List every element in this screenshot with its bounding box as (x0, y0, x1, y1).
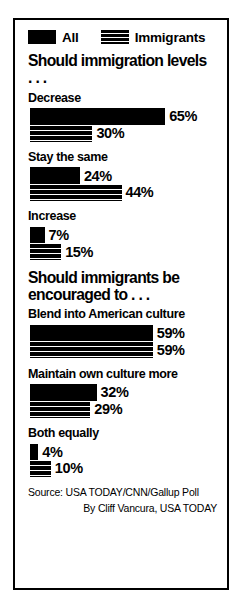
group-label-both-equally: Both equally (28, 426, 219, 440)
legend-label-immigrants: Immigrants (135, 30, 206, 45)
bar-immigrants (30, 401, 90, 418)
bar-value-all: 24% (84, 169, 112, 184)
bar-row-all: 65% (30, 108, 219, 125)
bar-pair-blend-into-american-culture: 59% 59% (28, 325, 219, 358)
bar-value-immigrants: 30% (96, 126, 124, 141)
bar-value-immigrants: 44% (126, 185, 154, 200)
bar-immigrants (30, 460, 51, 477)
bar-immigrants (30, 184, 122, 201)
group-decrease: Decrease 65% 30% (28, 91, 219, 141)
group-label-blend-into-american-culture: Blend into American culture (28, 307, 219, 321)
solid-black-swatch-icon (28, 30, 56, 44)
bar-value-all: 65% (169, 109, 197, 124)
bar-all (30, 167, 80, 184)
bar-all (30, 108, 165, 125)
bar-row-all: 4% (30, 444, 219, 461)
group-label-increase: Increase (28, 209, 219, 223)
bar-immigrants (30, 125, 92, 142)
group-increase: Increase 7% 15% (28, 209, 219, 259)
group-label-maintain-own-culture-more: Maintain own culture more (28, 367, 219, 381)
group-both-equally: Both equally 4% 10% (28, 426, 219, 476)
bar-value-all: 7% (49, 228, 69, 243)
bar-row-immigrants: 59% (30, 342, 219, 358)
bar-row-immigrants: 30% (30, 125, 219, 141)
source-line: Source: USA TODAY/CNN/Gallup Poll (28, 486, 219, 498)
bar-pair-increase: 7% 15% (28, 227, 219, 260)
bar-immigrants (30, 243, 61, 260)
group-stay-the-same: Stay the same 24% 44% (28, 150, 219, 200)
bar-row-immigrants: 10% (30, 461, 219, 477)
section-heading-immigrants-encouraged: Should immigrants be encouraged to . . . (28, 269, 209, 303)
bar-all (30, 444, 38, 461)
group-label-stay-the-same: Stay the same (28, 150, 219, 164)
bar-value-all: 4% (42, 445, 62, 460)
bar-row-all: 32% (30, 384, 219, 401)
legend-label-all: All (62, 30, 79, 45)
group-blend-into-american-culture: Blend into American culture 59% 59% (28, 307, 219, 357)
credit-line: By Cliff Vancura, USA TODAY (28, 502, 219, 514)
bar-row-all: 59% (30, 325, 219, 342)
chart-legend: All Immigrants (28, 26, 219, 48)
legend-item-all: All (28, 30, 79, 45)
chart-frame: All Immigrants Should immigration levels… (13, 18, 229, 590)
bar-row-all: 7% (30, 227, 219, 244)
bar-value-immigrants: 29% (94, 402, 122, 417)
bar-value-immigrants: 10% (55, 461, 83, 476)
group-maintain-own-culture-more: Maintain own culture more 32% 29% (28, 367, 219, 417)
bar-row-immigrants: 15% (30, 244, 219, 260)
chart-inner: All Immigrants Should immigration levels… (28, 26, 219, 514)
bar-value-all: 59% (157, 326, 185, 341)
bar-all (30, 227, 45, 244)
bar-immigrants (30, 341, 153, 358)
bar-pair-maintain-own-culture-more: 32% 29% (28, 384, 219, 417)
legend-item-immigrants: Immigrants (101, 30, 206, 45)
striped-black-swatch-icon (101, 30, 129, 44)
bar-pair-both-equally: 4% 10% (28, 444, 219, 477)
bar-value-all: 32% (101, 385, 129, 400)
bar-value-immigrants: 59% (157, 343, 185, 358)
group-label-decrease: Decrease (28, 91, 219, 105)
section-heading-immigration-levels: Should immigration levels . . . (28, 52, 209, 86)
bar-row-immigrants: 29% (30, 401, 219, 417)
bar-pair-decrease: 65% 30% (28, 108, 219, 141)
bar-value-immigrants: 15% (65, 245, 93, 260)
bar-all (30, 325, 153, 342)
bar-row-all: 24% (30, 167, 219, 184)
bar-all (30, 384, 97, 401)
bar-pair-stay-the-same: 24% 44% (28, 167, 219, 200)
bar-row-immigrants: 44% (30, 184, 219, 200)
